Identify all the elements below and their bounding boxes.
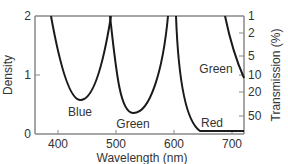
blue-label: Blue bbox=[68, 105, 92, 119]
y-right-tick-20: 20 bbox=[248, 85, 262, 99]
green-label: Green bbox=[116, 117, 149, 131]
green-curve bbox=[110, 16, 168, 113]
x-tick-600: 600 bbox=[164, 137, 184, 151]
x-tick-500: 500 bbox=[106, 137, 126, 151]
x-axis-label: Wavelength (nm) bbox=[97, 151, 188, 164]
y-left-tick-1: 1 bbox=[24, 68, 31, 82]
y-right-tick-5: 5 bbox=[248, 49, 255, 63]
y-right-tick-50: 50 bbox=[248, 109, 262, 123]
y-right-axis-label: Transmission (%) bbox=[269, 29, 283, 122]
y-right-tick-2: 2 bbox=[248, 26, 255, 40]
y-right-tick-1: 1 bbox=[248, 9, 255, 23]
x-tick-700: 700 bbox=[222, 137, 242, 151]
x-tick-400: 400 bbox=[48, 137, 68, 151]
y-left-tick-2: 2 bbox=[24, 9, 31, 23]
blue-curve bbox=[51, 16, 111, 100]
y-left-axis-label: Density bbox=[1, 55, 15, 95]
y-right-tick-10: 10 bbox=[248, 68, 262, 82]
y-left-tick-0: 0 bbox=[24, 127, 31, 141]
density-transmission-chart: 400 500 600 700 Wavelength (nm) 0 1 2 De… bbox=[0, 0, 288, 164]
red-label: Red bbox=[201, 116, 223, 130]
green-label-2: Green bbox=[199, 62, 232, 76]
